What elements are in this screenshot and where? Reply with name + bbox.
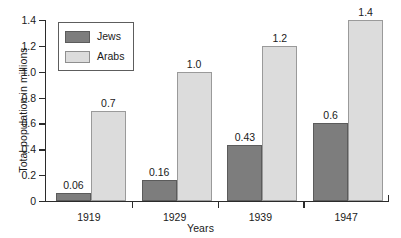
y-tick bbox=[39, 46, 46, 47]
bar-jews-1919: 0.06 bbox=[56, 193, 91, 201]
bar-value-label: 0.16 bbox=[149, 166, 169, 178]
y-tick-label: 0.8 bbox=[21, 92, 36, 104]
bar-chart: Total population in millions 00.20.40.60… bbox=[0, 0, 401, 238]
y-tick-label: 0.6 bbox=[21, 117, 36, 129]
bar-value-label: 1.2 bbox=[273, 32, 288, 44]
y-tick bbox=[39, 149, 46, 150]
bar-arabs-1939: 1.2 bbox=[262, 46, 297, 201]
bar-jews-1929: 0.16 bbox=[142, 180, 177, 201]
legend-label-jews: Jews bbox=[97, 31, 121, 42]
y-tick-label: 0.2 bbox=[21, 169, 36, 181]
bar-arabs-1929: 1.0 bbox=[177, 72, 212, 201]
legend-entry-jews: Jews bbox=[65, 28, 124, 45]
y-tick-label: 0 bbox=[30, 195, 36, 207]
y-tick bbox=[39, 123, 46, 124]
x-axis-right-end bbox=[388, 195, 389, 201]
y-tick-label: 1.4 bbox=[21, 14, 36, 26]
bar-value-label: 0.06 bbox=[63, 179, 83, 191]
bar-value-label: 0.6 bbox=[323, 109, 338, 121]
bar-value-label: 1.0 bbox=[187, 58, 202, 70]
y-tick bbox=[39, 72, 46, 73]
y-tick-label: 1.2 bbox=[21, 40, 36, 52]
y-tick bbox=[39, 98, 46, 99]
bar-arabs-1919: 0.7 bbox=[91, 111, 126, 202]
bar-value-label: 1.4 bbox=[358, 6, 373, 18]
bar-jews-1947: 0.6 bbox=[313, 123, 348, 201]
bar-arabs-1947: 1.4 bbox=[348, 20, 383, 201]
x-tick bbox=[303, 201, 304, 208]
bar-value-label: 0.7 bbox=[101, 97, 116, 109]
legend-swatch-arabs bbox=[65, 51, 90, 63]
y-tick-label: 0.4 bbox=[21, 143, 36, 155]
legend-entry-arabs: Arabs bbox=[65, 48, 124, 65]
legend-swatch-jews bbox=[65, 31, 90, 43]
x-axis-title: Years bbox=[0, 222, 401, 234]
y-tick bbox=[39, 20, 46, 21]
x-tick bbox=[132, 201, 133, 208]
y-tick bbox=[39, 175, 46, 176]
y-tick bbox=[39, 201, 46, 202]
legend: Jews Arabs bbox=[58, 22, 134, 71]
legend-label-arabs: Arabs bbox=[97, 51, 124, 62]
bar-jews-1939: 0.43 bbox=[227, 145, 262, 201]
bar-value-label: 0.43 bbox=[235, 131, 255, 143]
y-tick-label: 1.0 bbox=[21, 66, 36, 78]
x-tick bbox=[218, 201, 219, 208]
